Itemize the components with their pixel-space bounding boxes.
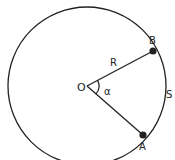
point-b-dot [149, 47, 156, 54]
label-o: O [77, 81, 86, 94]
label-a: A [139, 141, 146, 152]
radius-oa [87, 86, 143, 135]
label-angle: α [104, 86, 111, 97]
point-a-dot [139, 131, 146, 138]
circle-diagram: O B A R α S [0, 0, 175, 160]
label-arc: S [166, 89, 172, 100]
radius-ob [87, 51, 153, 86]
label-radius: R [110, 57, 117, 68]
label-b: B [149, 35, 156, 46]
angle-arc [96, 80, 99, 94]
